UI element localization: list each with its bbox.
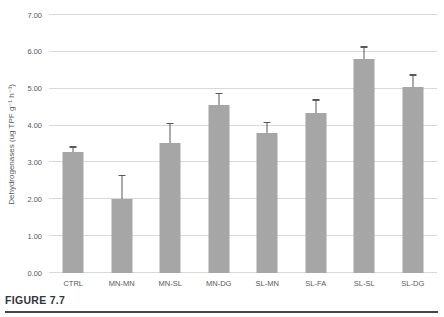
y-tick-label: 7.00 bbox=[27, 11, 42, 19]
error-bar-sl-dg bbox=[412, 76, 413, 87]
x-tick-label-sl-dg: SL-DG bbox=[401, 280, 424, 288]
error-cap-sl-mn bbox=[264, 122, 271, 124]
bar-sl-fa bbox=[305, 113, 326, 273]
gridline bbox=[49, 161, 437, 162]
error-bar-sl-sl bbox=[364, 48, 365, 59]
x-tick-label-mn-sl: MN-SL bbox=[159, 280, 182, 288]
error-bar-ctrl bbox=[73, 148, 74, 152]
bar-sl-sl bbox=[354, 59, 375, 273]
gridline bbox=[49, 14, 437, 15]
bar-sl-dg bbox=[402, 87, 423, 273]
y-tick-label: 2.00 bbox=[27, 196, 42, 204]
gridline bbox=[49, 51, 437, 52]
bar-ctrl bbox=[63, 152, 84, 273]
error-cap-ctrl bbox=[70, 146, 77, 148]
error-bar-mn-mn bbox=[121, 176, 122, 198]
gridline bbox=[49, 125, 437, 126]
error-cap-mn-mn bbox=[118, 175, 125, 177]
x-tick-label-mn-mn: MN-MN bbox=[109, 280, 135, 288]
figure-caption: FIGURE 7.7 bbox=[5, 294, 65, 306]
x-tick-label-ctrl: CTRL bbox=[63, 280, 83, 288]
gridline bbox=[49, 88, 437, 89]
y-tick-label: 5.00 bbox=[27, 85, 42, 93]
x-tick-label-sl-sl: SL-SL bbox=[354, 280, 375, 288]
bar-mn-mn bbox=[111, 199, 132, 273]
error-cap-mn-sl bbox=[167, 123, 174, 125]
error-bar-sl-fa bbox=[315, 101, 316, 113]
error-bar-mn-dg bbox=[218, 94, 219, 104]
bar-sl-mn bbox=[257, 133, 278, 273]
x-tick-label-sl-fa: SL-FA bbox=[305, 280, 326, 288]
error-cap-sl-dg bbox=[409, 74, 416, 76]
x-tick-label-sl-mn: SL-MN bbox=[256, 280, 279, 288]
x-axis-labels: CTRLMN-MNMN-SLMN-DGSL-MNSL-FASL-SLSL-DG bbox=[49, 280, 437, 292]
y-tick-label: 1.00 bbox=[27, 232, 42, 240]
y-tick-label: 3.00 bbox=[27, 159, 42, 167]
error-bar-sl-mn bbox=[267, 123, 268, 133]
bar-mn-dg bbox=[208, 105, 229, 273]
y-tick-label: 4.00 bbox=[27, 122, 42, 130]
error-cap-sl-fa bbox=[312, 99, 319, 101]
error-bar-mn-sl bbox=[170, 124, 171, 142]
gridline bbox=[49, 198, 437, 199]
figure-page: Dehydrogenases (ug TPF g⁻¹ h⁻¹) 0.001.00… bbox=[0, 0, 444, 317]
gridline bbox=[49, 235, 437, 236]
x-tick-label-mn-dg: MN-DG bbox=[206, 280, 231, 288]
y-tick-label: 6.00 bbox=[27, 48, 42, 56]
error-cap-sl-sl bbox=[361, 46, 368, 48]
caption-rule bbox=[5, 311, 438, 313]
error-cap-mn-dg bbox=[215, 93, 222, 95]
y-tick-label: 0.00 bbox=[27, 269, 42, 277]
gridline bbox=[49, 272, 437, 273]
y-axis-labels: 0.001.002.003.004.005.006.007.00 bbox=[0, 15, 44, 273]
bar-mn-sl bbox=[160, 143, 181, 273]
plot-area bbox=[49, 15, 437, 273]
